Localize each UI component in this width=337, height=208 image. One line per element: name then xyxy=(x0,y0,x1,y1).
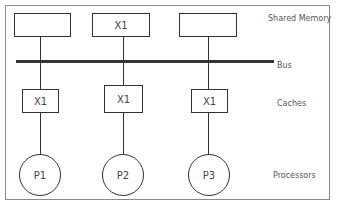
cache-box-label: X1 xyxy=(34,96,47,107)
cache-box-3: X1 xyxy=(191,89,228,113)
processor-label: P1 xyxy=(34,170,46,181)
caches-label: Caches xyxy=(277,99,306,108)
processor-label: P3 xyxy=(203,170,215,181)
cache-box-2: X1 xyxy=(104,85,143,113)
processor-node-3: P3 xyxy=(188,154,230,196)
memory-box-label: X1 xyxy=(114,20,127,31)
processor-node-1: P1 xyxy=(19,154,61,196)
bus-label: Bus xyxy=(277,61,292,70)
cache-box-1: X1 xyxy=(22,89,59,113)
memory-box-1 xyxy=(14,13,71,37)
processor-label: P2 xyxy=(117,170,129,181)
cache-box-label: X1 xyxy=(203,96,216,107)
memory-box-2: X1 xyxy=(92,13,150,37)
processors-label: Processors xyxy=(273,171,316,180)
shared-memory-label: Shared Memory xyxy=(268,14,331,23)
memory-box-3 xyxy=(179,13,237,37)
cache-box-label: X1 xyxy=(117,94,130,105)
processor-node-2: P2 xyxy=(102,154,144,196)
bus-line xyxy=(16,60,274,63)
